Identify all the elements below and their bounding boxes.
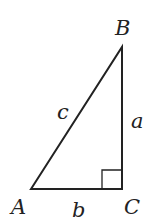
side-label-c: c bbox=[57, 100, 69, 124]
vertex-label-c: C bbox=[124, 195, 140, 219]
right-triangle-diagram: B A C a b c bbox=[0, 0, 154, 221]
right-angle-marker bbox=[102, 170, 122, 189]
vertex-label-b: B bbox=[114, 16, 130, 40]
side-label-b: b bbox=[72, 198, 85, 221]
side-label-a: a bbox=[131, 109, 144, 133]
triangle bbox=[31, 47, 122, 189]
vertex-label-a: A bbox=[9, 195, 26, 219]
